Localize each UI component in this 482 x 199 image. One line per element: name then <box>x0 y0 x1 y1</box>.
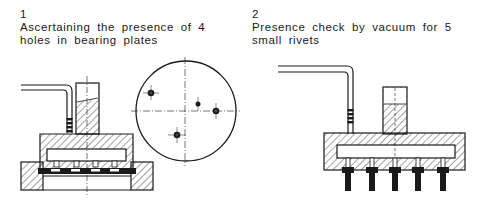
hole-icon <box>196 97 201 111</box>
diagram-canvas <box>0 0 482 199</box>
figure-1-cavity <box>47 149 126 161</box>
hole-icon <box>143 85 159 100</box>
hole-icon <box>168 127 186 143</box>
figure-1-base-left <box>21 162 43 190</box>
figure-2-pneumatic-line <box>278 66 353 134</box>
figure-1-sensing-head <box>21 76 153 195</box>
figure-2-cavity <box>337 145 455 158</box>
hole-icon <box>213 103 220 119</box>
figure-2-vacuum-head <box>278 66 465 192</box>
figure-1-top-view <box>131 57 240 166</box>
figure-1-base-right <box>131 162 153 190</box>
figure-1-pneumatic-line <box>21 85 72 133</box>
